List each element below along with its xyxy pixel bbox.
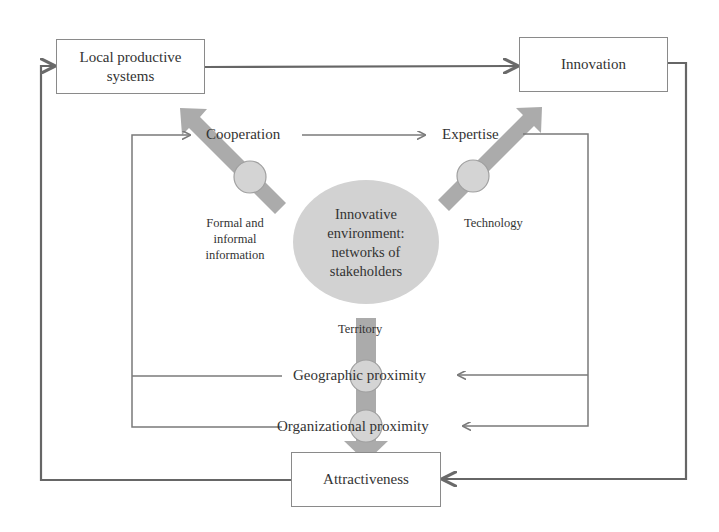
node-label: Attractiveness [323, 470, 409, 489]
label-technology: Technology [464, 215, 523, 231]
node-label: Local productive systems [65, 48, 196, 86]
label-territory: Territory [338, 321, 382, 337]
thick-arrow-cooperation [180, 108, 286, 214]
label-organizational-proximity: Organizational proximity [277, 418, 429, 435]
center-line: networks of [296, 243, 436, 262]
node-attractiveness: Attractiveness [291, 452, 441, 507]
label-expertise: Expertise [442, 126, 499, 143]
label-cooperation: Cooperation [206, 126, 280, 143]
diagram-canvas: Local productive systems Innovation Attr… [0, 0, 719, 532]
center-line: stakeholders [296, 262, 436, 281]
label-formal-informal-information: Formal and informal information [190, 215, 280, 263]
center-line: environment: [296, 224, 436, 243]
node-innovation: Innovation [519, 37, 668, 92]
node-local-productive-systems: Local productive systems [56, 39, 205, 94]
label-geographic-proximity: Geographic proximity [293, 367, 426, 384]
node-label: Innovation [561, 55, 626, 74]
node-circle-cooperation [234, 161, 266, 193]
center-line: Innovative [296, 205, 436, 224]
central-node-label: Innovative environment: networks of stak… [296, 205, 436, 281]
node-circle-expertise [457, 160, 489, 192]
thick-arrow-expertise [438, 107, 542, 211]
top-connector [205, 66, 517, 67]
